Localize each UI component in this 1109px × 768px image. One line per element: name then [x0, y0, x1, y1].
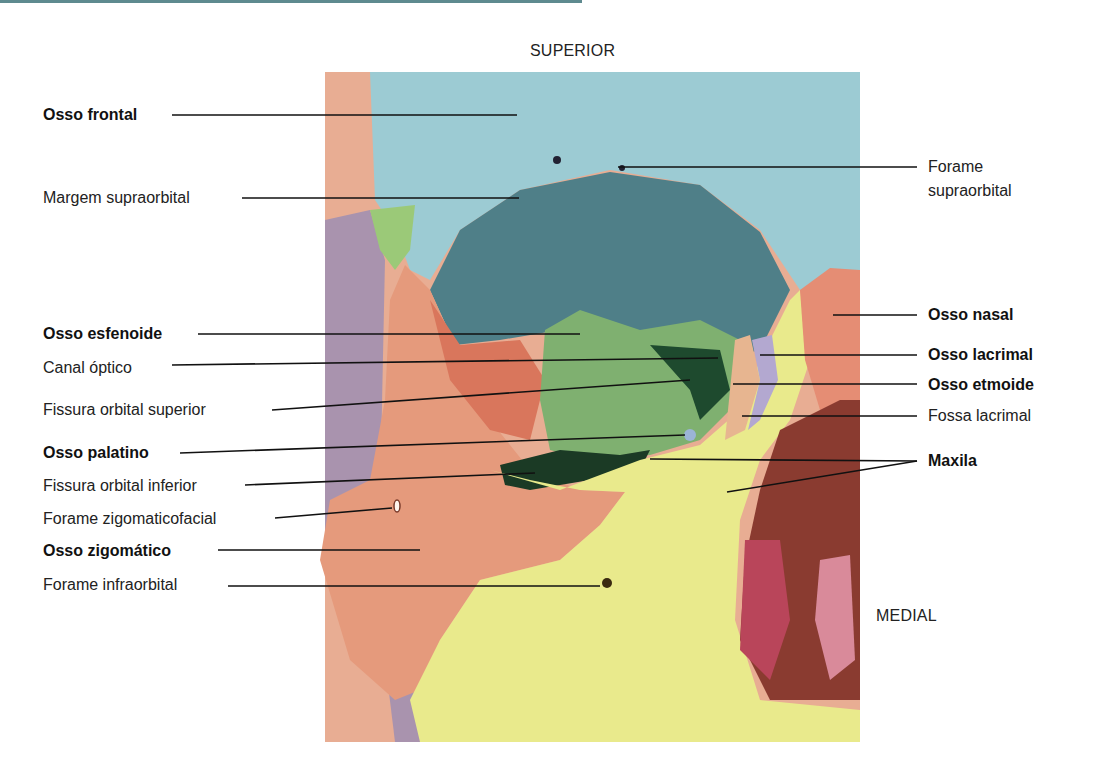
orientation-superior: SUPERIOR [530, 42, 615, 60]
label-fissura-orbital-superior: Fissura orbital superior [43, 401, 206, 419]
infraorbital-foramen [602, 578, 612, 588]
label-osso-palatino: Osso palatino [43, 444, 149, 462]
label-osso-frontal: Osso frontal [43, 106, 137, 124]
label-forame-supraorbital-line1: Forame [928, 158, 983, 176]
orientation-medial: MEDIAL [876, 607, 937, 625]
label-maxila: Maxila [928, 452, 977, 470]
label-margem-supraorbital: Margem supraorbital [43, 189, 190, 207]
label-canal-optico: Canal óptico [43, 359, 132, 377]
label-forame-supraorbital-line2: supraorbital [928, 182, 1012, 200]
palatine-bone [684, 429, 696, 441]
label-osso-nasal: Osso nasal [928, 306, 1013, 324]
label-osso-lacrimal: Osso lacrimal [928, 346, 1033, 364]
label-fossa-lacrimal: Fossa lacrimal [928, 407, 1031, 425]
supraorbital-foramen [619, 165, 625, 171]
supraorbital-notch [553, 156, 561, 164]
label-osso-etmoide: Osso etmoide [928, 376, 1034, 394]
zygomaticofacial-foramen [394, 500, 400, 512]
label-fissura-orbital-inferior: Fissura orbital inferior [43, 477, 197, 495]
label-forame-zigomaticofacial: Forame zigomaticofacial [43, 510, 216, 528]
label-osso-esfenoide: Osso esfenoide [43, 325, 162, 343]
label-osso-zigomatico: Osso zigomático [43, 542, 171, 560]
label-forame-infraorbital: Forame infraorbital [43, 576, 177, 594]
